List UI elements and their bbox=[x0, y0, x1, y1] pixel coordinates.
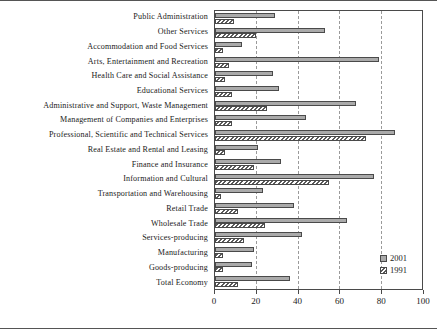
category-label: Accommodation and Food Services bbox=[0, 39, 212, 54]
bar-1991 bbox=[215, 48, 223, 53]
category-label: Services-producing bbox=[0, 231, 212, 246]
x-tick bbox=[256, 290, 257, 294]
x-tick bbox=[214, 290, 215, 294]
bar-row bbox=[215, 230, 422, 245]
bar-1991 bbox=[215, 19, 234, 24]
bar-2001 bbox=[215, 86, 279, 91]
bar-rows bbox=[215, 11, 422, 289]
bar-1991 bbox=[215, 209, 238, 214]
bar-row bbox=[215, 70, 422, 85]
bar-1991 bbox=[215, 121, 232, 126]
category-label: Educational Services bbox=[0, 84, 212, 99]
legend-item: 1991 bbox=[380, 265, 428, 275]
x-tick-label: 80 bbox=[377, 296, 386, 306]
chart-legend: 20011991 bbox=[378, 249, 430, 279]
bar-row bbox=[215, 187, 422, 202]
x-tick bbox=[423, 290, 424, 294]
hatched-swatch bbox=[380, 267, 387, 274]
bar-2001 bbox=[215, 159, 281, 164]
x-tick bbox=[381, 290, 382, 294]
category-label: Information and Cultural bbox=[0, 172, 212, 187]
x-tick-label: 40 bbox=[293, 296, 302, 306]
bar-1991 bbox=[215, 194, 221, 199]
category-label: Goods-producing bbox=[0, 260, 212, 275]
bar-row bbox=[215, 11, 422, 26]
bar-row bbox=[215, 128, 422, 143]
bar-row bbox=[215, 26, 422, 41]
legend-label: 2001 bbox=[390, 253, 407, 263]
bar-row bbox=[215, 113, 422, 128]
category-axis-labels: Public AdministrationOther ServicesAccom… bbox=[0, 10, 212, 290]
bar-2001 bbox=[215, 57, 379, 62]
bar-row bbox=[215, 55, 422, 70]
bar-2001 bbox=[215, 13, 275, 18]
x-tick-label: 0 bbox=[212, 296, 217, 306]
bar-2001 bbox=[215, 71, 273, 76]
bar-chart: Public AdministrationOther ServicesAccom… bbox=[0, 1, 437, 329]
bar-2001 bbox=[215, 115, 306, 120]
bar-row bbox=[215, 84, 422, 99]
bar-1991 bbox=[215, 63, 229, 68]
bar-2001 bbox=[215, 218, 347, 223]
solid-gray-swatch bbox=[380, 255, 387, 262]
category-label: Health Care and Social Assistance bbox=[0, 69, 212, 84]
category-label: Public Administration bbox=[0, 10, 212, 25]
bar-row bbox=[215, 157, 422, 172]
category-label: Retail Trade bbox=[0, 202, 212, 217]
bar-2001 bbox=[215, 145, 258, 150]
plot-inner bbox=[215, 11, 422, 289]
bar-1991 bbox=[215, 106, 267, 111]
bar-1991 bbox=[215, 165, 254, 170]
x-tick bbox=[339, 290, 340, 294]
bar-2001 bbox=[215, 42, 242, 47]
bar-1991 bbox=[215, 77, 225, 82]
bar-1991 bbox=[215, 136, 366, 141]
legend-label: 1991 bbox=[390, 265, 407, 275]
bar-2001 bbox=[215, 28, 325, 33]
bar-row bbox=[215, 40, 422, 55]
x-tick-label: 60 bbox=[335, 296, 344, 306]
bar-1991 bbox=[215, 180, 329, 185]
bar-2001 bbox=[215, 174, 374, 179]
bar-row bbox=[215, 216, 422, 231]
category-label: Total Economy bbox=[0, 275, 212, 290]
category-label: Administrative and Support, Waste Manage… bbox=[0, 98, 212, 113]
x-tick-label: 100 bbox=[416, 296, 430, 306]
bar-2001 bbox=[215, 101, 356, 106]
bar-1991 bbox=[215, 223, 265, 228]
category-label: Professional, Scientific and Technical S… bbox=[0, 128, 212, 143]
bar-2001 bbox=[215, 262, 252, 267]
bar-2001 bbox=[215, 188, 263, 193]
bar-2001 bbox=[215, 276, 290, 281]
bar-2001 bbox=[215, 232, 302, 237]
bar-1991 bbox=[215, 282, 238, 287]
figure-container: Public AdministrationOther ServicesAccom… bbox=[0, 0, 437, 329]
bar-1991 bbox=[215, 253, 223, 258]
category-label: Wholesale Trade bbox=[0, 216, 212, 231]
legend-item: 2001 bbox=[380, 253, 428, 263]
category-label: Manufacturing bbox=[0, 246, 212, 261]
bar-2001 bbox=[215, 203, 294, 208]
bar-2001 bbox=[215, 247, 254, 252]
bar-1991 bbox=[215, 238, 244, 243]
category-label: Other Services bbox=[0, 25, 212, 40]
x-tick-label: 20 bbox=[251, 296, 260, 306]
category-label: Transportation and Warehousing bbox=[0, 187, 212, 202]
bar-row bbox=[215, 201, 422, 216]
bar-1991 bbox=[215, 33, 256, 38]
bar-row bbox=[215, 99, 422, 114]
bar-1991 bbox=[215, 92, 232, 97]
category-label: Arts, Entertainment and Recreation bbox=[0, 54, 212, 69]
bar-row bbox=[215, 172, 422, 187]
x-tick bbox=[298, 290, 299, 294]
bar-row bbox=[215, 143, 422, 158]
category-label: Real Estate and Rental and Leasing bbox=[0, 143, 212, 158]
bar-2001 bbox=[215, 130, 395, 135]
bar-1991 bbox=[215, 150, 225, 155]
bar-1991 bbox=[215, 267, 223, 272]
plot-area bbox=[214, 10, 423, 290]
category-label: Finance and Insurance bbox=[0, 157, 212, 172]
category-label: Management of Companies and Enterprises bbox=[0, 113, 212, 128]
x-axis: 020406080100 bbox=[214, 290, 423, 316]
